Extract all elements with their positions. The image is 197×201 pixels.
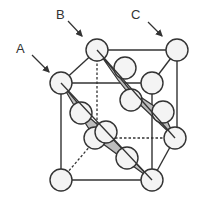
arrow-A-icon	[32, 55, 49, 72]
label-A: A	[16, 41, 25, 56]
arrow-C-icon	[148, 22, 162, 36]
atom-interior	[114, 57, 136, 79]
crystal-unit-cell-diagram: A B C	[0, 0, 197, 201]
atom-top-front-right	[141, 72, 163, 94]
arrow-B-icon	[68, 21, 82, 36]
atom-interior	[116, 147, 138, 169]
atom-top-back-right-C	[166, 39, 188, 61]
label-C: C	[131, 7, 140, 22]
label-B: B	[56, 7, 65, 22]
atom-bottom-front-left	[50, 169, 72, 191]
atom-interior	[152, 101, 174, 123]
atom-interior	[120, 89, 142, 111]
